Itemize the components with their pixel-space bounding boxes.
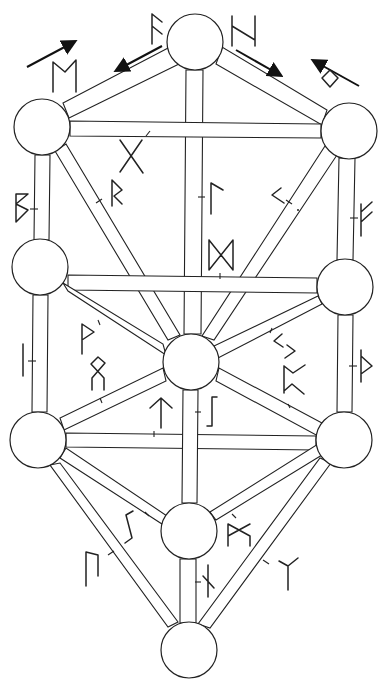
rune-jera-icon [274, 334, 295, 358]
rune-thurisaz-icon [361, 350, 372, 382]
rune-tiwaz-icon [150, 398, 172, 428]
rune-sowilo-icon [125, 511, 133, 543]
node-lower-left [10, 412, 66, 468]
path-upper-left-center [55, 144, 180, 340]
rune-fehu-icon [152, 14, 162, 44]
path-center-lower-center [182, 390, 198, 503]
path-mid-right-lower-right [337, 315, 353, 412]
node-center [163, 334, 219, 390]
arrow-upper-left-icon [27, 42, 74, 67]
rune-laguz-icon [211, 183, 223, 214]
path-top-upper-left [63, 47, 179, 118]
path-upper-right-mid-right [337, 158, 355, 260]
path-mid-left-lower-left [32, 295, 48, 412]
node-top [167, 14, 223, 70]
path-upper-right-center [202, 146, 337, 340]
node-lower-center [161, 503, 217, 559]
rune-dagaz-icon [209, 240, 233, 270]
path-top-upper-right [216, 47, 327, 125]
node-upper-right [321, 103, 377, 159]
rune-mannaz-icon [53, 60, 76, 92]
node-mid-left [12, 239, 68, 295]
rune-wunjo-icon [82, 324, 94, 354]
path-mid-left-mid-right [68, 275, 317, 293]
path-center-lower-left [60, 368, 166, 430]
path-top-center [184, 70, 203, 334]
path-upper-left-mid-left [34, 155, 50, 240]
rune-raido-icon [112, 180, 122, 206]
rune-perthro-icon [284, 365, 305, 394]
rune-algiz-icon [279, 558, 298, 590]
rune-ansuz-icon [361, 202, 372, 236]
rune-kenaz-icon [272, 188, 284, 203]
rune-eihwaz-icon [207, 397, 217, 426]
rune-nauthiz-icon [203, 565, 214, 597]
node-lower-right [316, 412, 372, 468]
node-mid-right [317, 259, 373, 315]
rune-berkano-icon [16, 194, 28, 222]
tree-of-life-diagram [0, 0, 386, 690]
rune-gebo-icon [120, 140, 143, 173]
arrow-upper-right-icon [314, 61, 359, 86]
path-lower-center-bottom [180, 559, 196, 623]
node-upper-left [14, 99, 70, 155]
node-bottom [161, 622, 217, 678]
rune-uruz-icon [86, 552, 98, 586]
path-upper-left-upper-right [70, 121, 321, 138]
dot-mark [297, 209, 299, 211]
rune-hagalaz-icon [232, 16, 255, 46]
path-center-lower-right [216, 368, 322, 436]
rune-ehwaz-icon [228, 524, 250, 546]
rune-othala-icon [91, 357, 105, 390]
